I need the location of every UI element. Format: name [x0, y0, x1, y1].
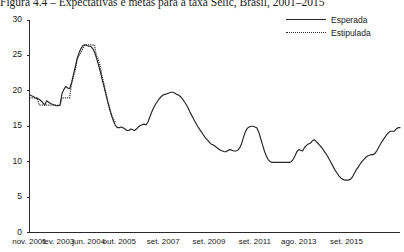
legend-label-esperada: Esperada	[331, 15, 367, 25]
x-axis-tick-label: set. 2015	[317, 237, 377, 246]
series-line-estipulada	[30, 45, 116, 123]
chart-legend: Esperada Estipulada	[286, 13, 402, 39]
y-axis-tick-label: 30	[0, 15, 22, 24]
y-axis-tick-label: 5	[0, 192, 22, 201]
legend-swatch-dotted-icon	[286, 28, 326, 37]
series-line-esperada	[30, 45, 401, 180]
legend-label-estipulada: Estipulada	[331, 28, 371, 38]
y-axis-tick-label: 0	[0, 228, 22, 237]
axes-group	[30, 20, 401, 233]
y-axis-tick-label: 10	[0, 157, 22, 166]
legend-item-estipulada: Estipulada	[286, 26, 402, 39]
legend-item-esperada: Esperada	[286, 13, 402, 26]
figure-container: Figura 4.4 – Expectativas e metas para a…	[0, 0, 404, 252]
y-axis-tick-label: 20	[0, 86, 22, 95]
legend-swatch-solid-icon	[286, 15, 326, 24]
y-axis-tick-label: 25	[0, 50, 22, 59]
y-axis-tick-label: 15	[0, 121, 22, 130]
